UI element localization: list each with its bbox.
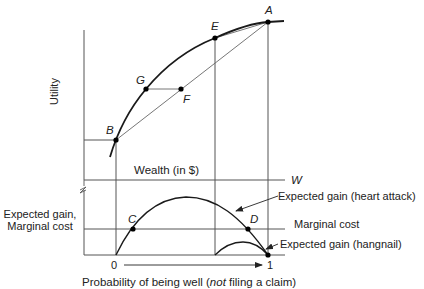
point-g — [143, 86, 148, 91]
point-d — [245, 226, 250, 231]
utility-curve — [110, 21, 284, 157]
probability-label-suffix: filing a claim) — [226, 276, 296, 288]
point-b — [113, 137, 118, 142]
utility-axis-label: Utility — [48, 78, 60, 105]
heart-attack-curve — [116, 197, 268, 255]
label-f: F — [183, 93, 190, 105]
axis-break-icon — [80, 180, 86, 193]
label-a: A — [265, 4, 273, 16]
label-d: D — [250, 213, 258, 225]
chord-e-a — [215, 22, 268, 38]
probability-end-label: 1 — [267, 259, 273, 271]
wealth-end-label: W — [291, 174, 302, 186]
point-f — [178, 86, 183, 91]
point-a — [265, 19, 270, 24]
wealth-axis-label: Wealth (in $) — [134, 164, 199, 176]
point-end — [265, 252, 270, 257]
label-e: E — [211, 20, 219, 32]
probability-label-prefix: Probability of being well ( — [82, 276, 210, 288]
heart-attack-annotation: Expected gain (heart attack) — [278, 190, 416, 202]
expected-gain-label-line2: Marginal cost — [2, 220, 78, 232]
probability-axis-label: Probability of being well (not filing a … — [82, 276, 296, 288]
expected-gain-axis-label: Expected gain, Marginal cost — [2, 208, 78, 232]
point-e — [212, 35, 217, 40]
expected-gain-label-line1: Expected gain, — [2, 208, 78, 220]
marginal-cost-annotation: Marginal cost — [294, 218, 359, 230]
point-c — [130, 226, 135, 231]
label-c: C — [128, 213, 136, 225]
heart-attack-leader — [236, 196, 278, 211]
hangnail-annotation: Expected gain (hangnail) — [280, 238, 402, 250]
probability-start-label: 0 — [111, 259, 117, 271]
label-b: B — [106, 124, 114, 136]
probability-label-italic: not — [210, 276, 226, 288]
label-g: G — [136, 74, 145, 86]
